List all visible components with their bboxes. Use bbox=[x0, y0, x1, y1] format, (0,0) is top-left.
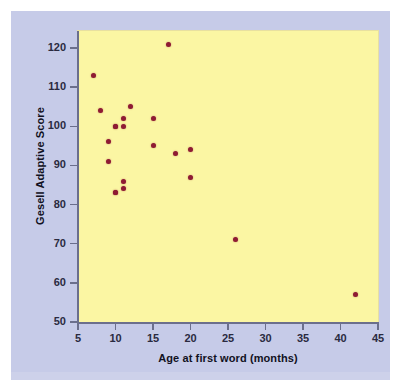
y-tick-110 bbox=[70, 86, 77, 88]
y-tick-80 bbox=[70, 204, 77, 206]
data-point bbox=[151, 116, 156, 121]
data-point bbox=[106, 159, 111, 164]
scatter-plot-figure: 5060708090100110120 51015202530354045 Ag… bbox=[0, 0, 401, 391]
x-tick-label-30: 30 bbox=[251, 333, 281, 344]
x-tick-10 bbox=[115, 323, 117, 330]
x-tick-label-10: 10 bbox=[101, 333, 131, 344]
x-tick-5 bbox=[77, 323, 79, 330]
data-point bbox=[113, 124, 118, 129]
data-point bbox=[121, 179, 126, 184]
data-point bbox=[166, 42, 171, 47]
x-tick-label-20: 20 bbox=[176, 333, 206, 344]
x-tick-35 bbox=[302, 323, 304, 330]
plot-area bbox=[78, 31, 378, 322]
y-tick-100 bbox=[70, 126, 77, 128]
data-point bbox=[121, 124, 126, 129]
y-tick-label-120: 120 bbox=[40, 42, 66, 53]
x-tick-15 bbox=[152, 323, 154, 330]
data-point bbox=[121, 186, 126, 191]
x-axis-title: Age at first word (months) bbox=[78, 352, 378, 364]
x-tick-label-25: 25 bbox=[213, 333, 243, 344]
y-tick-70 bbox=[70, 243, 77, 245]
y-tick-label-60: 60 bbox=[40, 277, 66, 288]
y-tick-label-50: 50 bbox=[40, 316, 66, 327]
x-tick-label-5: 5 bbox=[63, 333, 93, 344]
y-tick-90 bbox=[70, 165, 77, 167]
y-tick-50 bbox=[70, 321, 77, 323]
x-tick-20 bbox=[190, 323, 192, 330]
y-axis-line bbox=[77, 31, 79, 323]
y-axis-title: Gesell Adaptive Score bbox=[34, 56, 46, 276]
x-tick-25 bbox=[227, 323, 229, 330]
data-point bbox=[151, 143, 156, 148]
x-tick-30 bbox=[265, 323, 267, 330]
data-point bbox=[91, 73, 96, 78]
data-point bbox=[188, 175, 193, 180]
x-tick-label-35: 35 bbox=[288, 333, 318, 344]
x-tick-label-45: 45 bbox=[363, 333, 393, 344]
x-tick-label-15: 15 bbox=[138, 333, 168, 344]
x-tick-label-40: 40 bbox=[326, 333, 356, 344]
y-tick-120 bbox=[70, 47, 77, 49]
x-tick-45 bbox=[377, 323, 379, 330]
y-tick-60 bbox=[70, 282, 77, 284]
x-tick-40 bbox=[340, 323, 342, 330]
data-point bbox=[121, 116, 126, 121]
